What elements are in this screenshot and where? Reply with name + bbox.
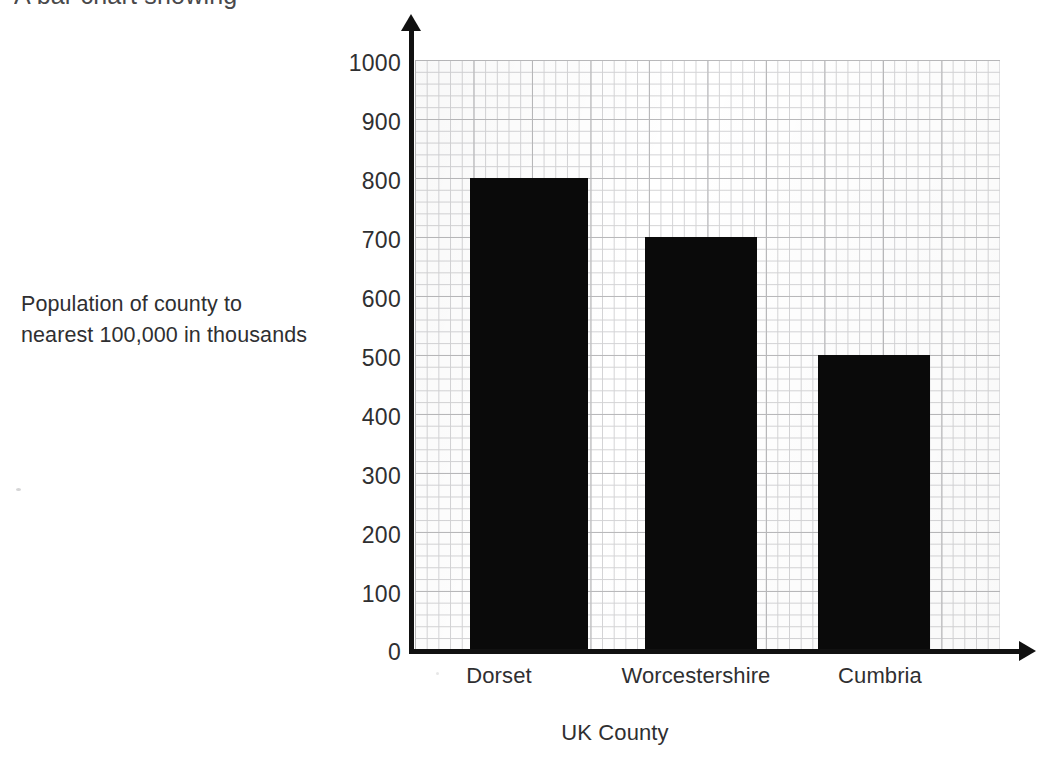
x-tick-worcestershire: Worcestershire	[591, 664, 801, 688]
cropped-heading-strip: A bar chart showing	[0, 0, 1042, 9]
y-tick-900: 900	[301, 111, 401, 134]
y-axis-arrow-icon	[401, 14, 421, 31]
bar-cumbria	[818, 355, 930, 650]
bar-dorset	[470, 178, 588, 650]
y-tick-100: 100	[301, 583, 401, 606]
y-tick-1000: 1000	[301, 52, 401, 75]
x-tick-cumbria: Cumbria	[795, 664, 965, 688]
x-axis-caption: UK County	[0, 720, 1042, 746]
x-axis-line	[409, 649, 1023, 654]
x-tick-dorset: Dorset	[414, 664, 584, 688]
scan-speck	[436, 672, 439, 675]
cropped-heading-text: A bar chart showing	[14, 0, 237, 9]
x-axis-caption-text: UK County	[561, 720, 668, 745]
y-tick-400: 400	[301, 406, 401, 429]
y-tick-500: 500	[301, 347, 401, 370]
y-axis-tick-labels: 1000 900 800 700 600 500 400 300 200 100…	[297, 0, 401, 784]
y-tick-600: 600	[301, 288, 401, 311]
y-tick-0: 0	[301, 641, 401, 664]
y-tick-200: 200	[301, 524, 401, 547]
bar-worcestershire	[645, 237, 757, 650]
y-tick-700: 700	[301, 229, 401, 252]
y-axis-line	[409, 28, 414, 653]
y-tick-800: 800	[301, 170, 401, 193]
plot-area	[415, 60, 1000, 650]
scan-speck	[16, 488, 21, 491]
x-axis-arrow-icon	[1019, 641, 1036, 661]
y-tick-300: 300	[301, 465, 401, 488]
